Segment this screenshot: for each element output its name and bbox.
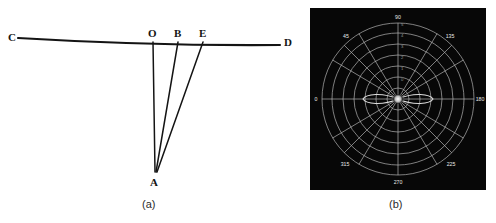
angle-label-180: 180 [476, 96, 485, 102]
angle-label-270: 270 [394, 179, 403, 185]
point-label-d: D [284, 36, 292, 48]
caption-panel-b: (b) [389, 198, 402, 210]
panel-b-polar-plot: 90 135 180 225 270 315 0 45 5 4 3 2 1 0 [310, 8, 486, 190]
point-label-e: E [199, 27, 207, 39]
angle-label-90: 90 [395, 14, 401, 20]
ray-b-a [156, 42, 178, 172]
angle-label-315: 315 [341, 161, 350, 167]
ray-e-a [157, 42, 203, 172]
point-label-a: A [150, 176, 158, 188]
polar-center-marker [393, 94, 403, 104]
caption-panel-a: (a) [142, 198, 155, 210]
angle-label-225: 225 [447, 161, 456, 167]
panel-a-ray-diagram: C O B E D A [0, 0, 300, 223]
point-label-b: B [174, 27, 182, 39]
figure-container: C O B E D A [0, 0, 496, 223]
angle-label-135: 135 [446, 33, 455, 39]
baseline-cd [18, 38, 280, 45]
angle-label-45: 45 [343, 33, 349, 39]
angle-label-0: 0 [315, 96, 318, 102]
point-label-o: O [148, 27, 157, 39]
point-label-c: C [8, 31, 16, 43]
polar-plot-drawing: 90 135 180 225 270 315 0 45 5 4 3 2 1 0 [310, 8, 486, 190]
ray-o-a [153, 42, 155, 172]
